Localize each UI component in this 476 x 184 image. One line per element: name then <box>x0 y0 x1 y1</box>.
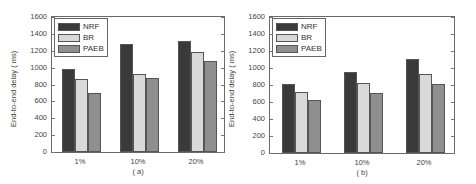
legend-item-br: BR <box>276 32 322 43</box>
legend-item-paeb: PAEB <box>276 43 322 54</box>
legend: NRFBRPAEB <box>272 18 326 57</box>
y-tick-label: 1200 <box>239 46 265 55</box>
plot-area: NRFBRPAEB <box>269 16 455 154</box>
y-tick-mark <box>270 17 273 18</box>
y-tick-mark <box>451 34 454 35</box>
y-tick-mark <box>270 136 273 137</box>
y-axis-label: End-to-end delay ( ms) <box>227 51 236 127</box>
y-tick-label: 600 <box>239 97 265 106</box>
y-tick-label: 1000 <box>239 63 265 72</box>
legend-label: NRF <box>301 22 317 31</box>
bar-nrf-1pct <box>282 84 295 153</box>
y-tick-label: 0 <box>239 148 265 157</box>
bar-br-10pct <box>357 83 370 153</box>
y-tick-mark <box>270 68 273 69</box>
legend-swatch-br <box>276 34 298 42</box>
chart-b: NRFBRPAEB02004006008001000120014001600En… <box>0 0 476 184</box>
bar-paeb-10pct <box>370 93 383 153</box>
legend-label: PAEB <box>301 44 322 53</box>
legend-label: BR <box>301 33 312 42</box>
x-tick-label: 10% <box>347 158 377 167</box>
chart-caption: ( b) <box>347 168 377 177</box>
y-tick-mark <box>451 153 454 154</box>
y-tick-mark <box>270 51 273 52</box>
y-tick-label: 1600 <box>239 12 265 21</box>
legend-item-nrf: NRF <box>276 21 322 32</box>
y-tick-mark <box>451 136 454 137</box>
y-tick-label: 800 <box>239 80 265 89</box>
y-tick-mark <box>270 153 273 154</box>
legend-swatch-paeb <box>276 45 298 53</box>
y-tick-label: 200 <box>239 131 265 140</box>
bar-paeb-20pct <box>432 84 445 153</box>
legend-swatch-nrf <box>276 23 298 31</box>
bar-nrf-20pct <box>406 59 419 153</box>
y-tick-mark <box>270 34 273 35</box>
y-tick-mark <box>270 102 273 103</box>
y-tick-mark <box>451 119 454 120</box>
bar-br-1pct <box>295 92 308 153</box>
y-tick-mark <box>270 119 273 120</box>
y-tick-mark <box>451 51 454 52</box>
y-tick-mark <box>270 85 273 86</box>
y-tick-mark <box>451 85 454 86</box>
y-tick-mark <box>451 17 454 18</box>
y-tick-mark <box>451 102 454 103</box>
bar-nrf-10pct <box>344 72 357 153</box>
bar-br-20pct <box>419 74 432 153</box>
bar-paeb-1pct <box>308 100 321 153</box>
x-tick-label: 20% <box>409 158 439 167</box>
x-tick-label: 1% <box>285 158 315 167</box>
y-tick-label: 1400 <box>239 29 265 38</box>
y-tick-mark <box>451 68 454 69</box>
y-tick-label: 400 <box>239 114 265 123</box>
